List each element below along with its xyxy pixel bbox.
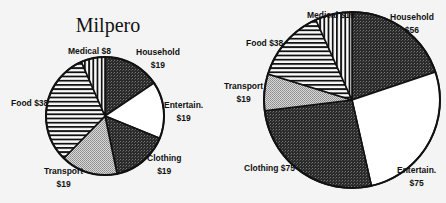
label-entertain-right: Entertain. $75 — [397, 164, 436, 190]
label-household-left-value: $19 — [136, 59, 180, 72]
label-transport-left-name: Transport — [44, 165, 83, 178]
chart-title: Milpero — [53, 14, 163, 37]
label-clothing-right: Clothing $75 — [244, 162, 295, 175]
label-household-right-name: Household — [390, 11, 434, 24]
label-household-right-value: $56 — [390, 24, 434, 37]
label-transport-right-value: $19 — [224, 93, 263, 106]
label-medical-right: Medical $19 — [307, 9, 355, 22]
label-entertain-left-value: $19 — [164, 112, 203, 125]
label-entertain-left-name: Entertain. — [164, 99, 203, 112]
label-food-left: Food $38 — [11, 97, 48, 110]
label-household-right: Household $56 — [390, 11, 434, 37]
label-transport-left: Transport $19 — [44, 165, 83, 191]
label-entertain-right-value: $75 — [397, 177, 436, 190]
label-medical-left: Medical $8 — [68, 45, 111, 58]
label-entertain-right-name: Entertain. — [397, 164, 436, 177]
label-transport-right-name: Transport — [224, 80, 263, 93]
label-clothing-left-name: Clothing — [147, 152, 181, 165]
label-food-right: Food $38 — [246, 37, 283, 50]
label-clothing-left: Clothing $19 — [147, 152, 181, 178]
label-household-left-name: Household — [136, 46, 180, 59]
label-transport-left-value: $19 — [44, 178, 83, 191]
label-entertain-left: Entertain. $19 — [164, 99, 203, 125]
label-clothing-left-value: $19 — [147, 165, 181, 178]
label-household-left: Household $19 — [136, 46, 180, 72]
label-transport-right: Transport $19 — [224, 80, 263, 106]
